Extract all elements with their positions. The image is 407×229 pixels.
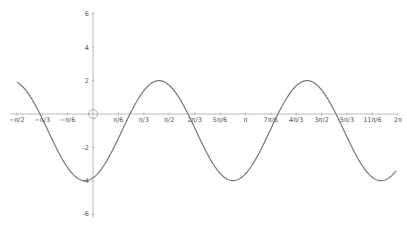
x-tick-label: 2π	[394, 116, 402, 124]
function-plot: −π/2−π/3−π/6π/6π/3π/22π/35π/6π7π/64π/33π…	[0, 0, 407, 229]
x-tick-label: π	[243, 116, 247, 124]
x-axis: −π/2−π/3−π/6π/6π/3π/22π/35π/6π7π/64π/33π…	[9, 113, 402, 125]
x-tick-label: π/2	[164, 116, 174, 124]
x-tick-label: 4π/3	[289, 116, 303, 124]
x-tick-label: −π/2	[9, 116, 25, 124]
y-tick-label: 6	[85, 10, 89, 18]
x-tick-label: 3π/2	[314, 116, 328, 124]
y-tick-label: 2	[85, 77, 89, 85]
y-tick-label: -6	[83, 210, 89, 218]
y-tick-label: -2	[83, 144, 89, 152]
y-tick-label: 4	[85, 44, 89, 52]
x-tick-label: −π/6	[60, 116, 76, 124]
x-tick-label: 11π/6	[363, 116, 382, 124]
function-curve	[17, 81, 396, 181]
x-tick-label: π/6	[113, 116, 123, 124]
x-tick-label: 5π/6	[213, 116, 227, 124]
x-tick-label: 5π/3	[340, 116, 354, 124]
x-tick-label: π/3	[139, 116, 149, 124]
